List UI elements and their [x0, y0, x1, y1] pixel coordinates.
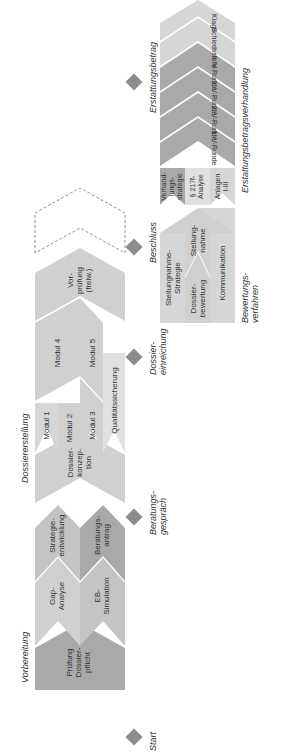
label-vorpruefung: Vor- prüfung (freiw.) [66, 258, 93, 303]
milestone-erstattungsbetrag: Erstattungsbetrag [148, 42, 158, 113]
label-kommunikation: Kommunikation [218, 233, 227, 313]
label-stellungnahme-strategie: Stellungnahme- Strategie [164, 243, 182, 313]
label-klage: Klage [210, 0, 219, 48]
label-modul5: Modul 5 [88, 323, 97, 383]
label-modul2: Modul 2 [65, 403, 74, 453]
milestone-dossiereinreichung: Dossier- einreichung [148, 328, 168, 375]
label-pruefung: Prüfung Dossier- pflicht [65, 635, 92, 690]
phase-vorbereitung: Vorbereitung [20, 632, 30, 683]
label-qualitaet: Qualitätssicherung [110, 353, 119, 448]
phase-erstattungsbetragsverhandlung: Erstattungsbetragsverhandlung [240, 68, 250, 193]
label-modul1: Modul 1 [42, 403, 51, 448]
label-strategie: Strategie- entwicklung [48, 508, 66, 563]
label-modul3: Modul 3 [88, 403, 97, 448]
label-gap: Gap- Analyse [48, 571, 66, 621]
block-placeholder [35, 188, 125, 253]
label-eb-sim: EB- Simulation [93, 571, 111, 621]
milestone-beratungsgespraech: Beratungs- gespräch [148, 491, 168, 535]
label-217f: § 217f- Analyse [189, 168, 205, 205]
label-dossierbewertung: Dossier- bewertung [189, 276, 207, 321]
milestone-start: Start [148, 732, 158, 751]
milestone-beschluss: Beschluss [148, 222, 158, 263]
phase-dossiererstellung: Dossiererstellung [20, 413, 30, 483]
process-diagram: Vorbereitung Dossiererstellung Bewertung… [0, 0, 283, 753]
label-stellungnahme: Stellung- nahme [189, 218, 207, 263]
label-modul4: Modul 4 [53, 323, 62, 383]
label-beratungsantrag: Beratungs- antrag [93, 508, 111, 563]
phase-bewertungsverfahren: Bewertungs- verfahren [240, 272, 260, 323]
label-verhandlungsstrategie: Verhand- lungs- strategie [160, 168, 184, 205]
